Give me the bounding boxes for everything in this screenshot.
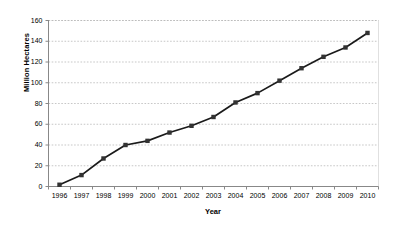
data-point-marker (365, 31, 369, 35)
data-point-marker (233, 100, 237, 104)
y-axis-title: Million Hectares (22, 3, 31, 123)
data-point-marker (277, 78, 281, 82)
data-point-marker (145, 139, 149, 143)
data-point-marker (211, 115, 215, 119)
data-point-marker (189, 124, 193, 128)
data-point-marker (57, 183, 61, 187)
data-point-marker (79, 173, 83, 177)
data-point-marker (255, 91, 259, 95)
data-point-marker (101, 156, 105, 160)
data-point-marker (343, 45, 347, 49)
data-point-marker (299, 66, 303, 70)
data-point-marker (123, 143, 127, 147)
x-axis-title: Year (48, 207, 378, 216)
plot-area (0, 0, 393, 226)
line-chart: 020406080100120140160 199619971998199920… (0, 0, 393, 226)
data-point-marker (321, 55, 325, 59)
data-point-marker (167, 130, 171, 134)
